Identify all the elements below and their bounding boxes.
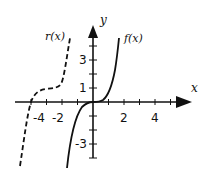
x-tick-label-4: 4 (151, 111, 159, 125)
y-axis-arrow-icon (88, 25, 98, 38)
y-tick-label-neg3: -3 (75, 137, 87, 151)
x-axis-arrow-icon (176, 96, 192, 108)
x-tick-label-2: 2 (120, 111, 128, 125)
function-graph: -4 -2 2 4 3 1 -3 x y r(x) f(x) (0, 0, 206, 175)
f-of-x-label: f(x) (123, 32, 143, 45)
y-tick-label-1: 1 (79, 81, 87, 95)
y-axis-label: y (99, 13, 107, 27)
x-tick-label-neg4: -4 (33, 111, 45, 125)
x-axis-label: x (191, 81, 198, 95)
r-of-x-label: r(x) (45, 30, 65, 43)
y-tick-label-3: 3 (79, 53, 87, 67)
x-tick-label-neg2: -2 (52, 111, 64, 125)
